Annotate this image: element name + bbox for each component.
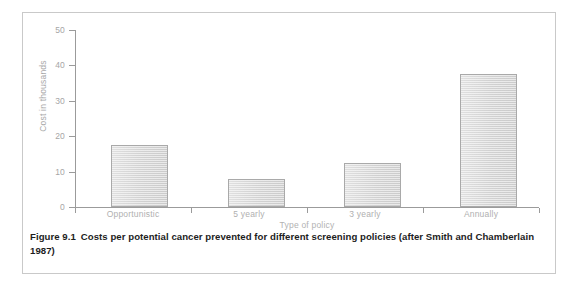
figure-caption-label: Figure 9.1	[30, 231, 76, 242]
x-tick-4	[539, 208, 540, 213]
y-tick-10	[69, 172, 75, 173]
figure-caption-text: Costs per potential cancer prevented for…	[30, 231, 534, 256]
x-axis-title: Type of policy	[75, 220, 539, 230]
y-tick-label-0: 0	[35, 202, 65, 212]
y-tick-30	[69, 101, 75, 102]
bar-5-yearly[interactable]	[228, 179, 285, 207]
x-category-label-annually: Annually	[423, 209, 539, 219]
bar-annually[interactable]	[460, 74, 517, 207]
bar-3-yearly[interactable]	[344, 163, 401, 207]
x-category-label-opportunistic: Opportunistic	[75, 209, 191, 219]
y-tick-label-50: 50	[35, 25, 65, 35]
x-category-label-5-yearly: 5 yearly	[191, 209, 307, 219]
figure-caption: Figure 9.1Costs per potential cancer pre…	[30, 230, 550, 258]
y-axis-line	[75, 30, 76, 208]
y-tick-label-10: 10	[35, 167, 65, 177]
x-category-label-3-yearly: 3 yearly	[307, 209, 423, 219]
y-axis-title: Cost in thousands	[38, 51, 48, 141]
y-tick-50	[69, 30, 75, 31]
y-tick-20	[69, 136, 75, 137]
y-tick-40	[69, 65, 75, 66]
bar-opportunistic[interactable]	[111, 145, 168, 207]
